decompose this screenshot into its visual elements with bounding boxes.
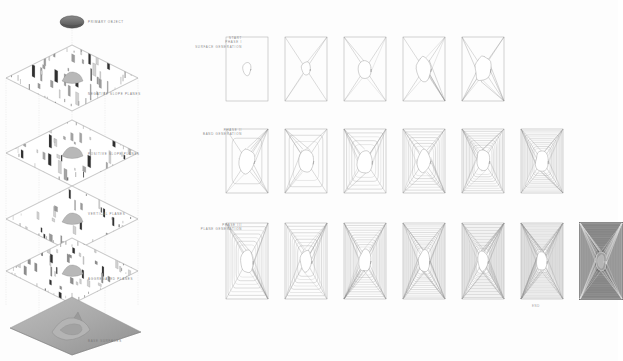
- panel-plane-generation-step-4: [402, 222, 446, 300]
- isometric-stack-svg: [0, 0, 190, 361]
- phase-matrix: START PHASE I SURFACE GENERATION PHASE I…: [190, 0, 618, 361]
- primary-object-blob: [60, 16, 84, 28]
- panel-band-generation-step-3: [343, 128, 387, 194]
- panel-surface-generation-step-5: [461, 36, 505, 102]
- panel-plane-generation-step-3: [343, 222, 387, 300]
- panel-band-generation-step-6: [520, 128, 564, 194]
- label-end: END: [532, 304, 540, 308]
- label-primary-object: PRIMARY OBJECT: [88, 20, 124, 24]
- layer-aggregated-planes: [6, 236, 138, 304]
- panel-band-generation-step-5: [461, 128, 505, 194]
- panel-band-generation-step-1: [225, 128, 269, 194]
- isometric-stack-diagram: PRIMARY OBJECT NEGATIVE SLOPE PLANES POS…: [0, 0, 190, 361]
- panel-plane-generation-step-6: [520, 222, 564, 300]
- panel-plane-generation-step-1: [225, 222, 269, 300]
- panel-band-generation-step-4: [402, 128, 446, 194]
- panel-band-generation-step-2: [284, 128, 328, 194]
- layer-negative-slope-planes: [6, 41, 138, 111]
- label-aggregated-planes: AGGREGATED PLANES: [88, 277, 133, 281]
- panel-surface-generation-step-2: [284, 36, 328, 102]
- panel-surface-generation-step-3: [343, 36, 387, 102]
- panel-plane-generation-step-5: [461, 222, 505, 300]
- panel-surface-generation-step-4: [402, 36, 446, 102]
- panel-plane-generation-step-2: [284, 222, 328, 300]
- panel-plane-generation-step-7: [579, 222, 623, 300]
- label-base-surfaces: BASE SURFACES: [88, 339, 122, 343]
- layer-base-surfaces: [10, 297, 141, 355]
- label-vertical-planes: VERTICAL PLANES: [88, 212, 125, 216]
- label-positive-slope-planes: POSITIVE SLOPE PLANES: [88, 152, 140, 156]
- label-negative-slope-planes: NEGATIVE SLOPE PLANES: [88, 92, 141, 96]
- panel-surface-generation-step-1: [225, 36, 269, 102]
